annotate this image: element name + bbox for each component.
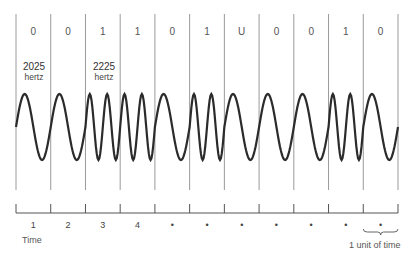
timeline-tick-label: • — [155, 220, 190, 230]
freq-unit: hertz — [14, 72, 54, 82]
cell-dividers — [16, 14, 398, 190]
bit-value: 0 — [155, 26, 190, 37]
freq-value: 2225 — [84, 62, 124, 72]
bit-value: 0 — [16, 26, 51, 37]
bit-value: 0 — [51, 26, 86, 37]
timeline-tick-label: • — [363, 220, 398, 230]
fsk-waveform — [16, 94, 398, 160]
freq-label-2025: 2025 hertz — [14, 62, 54, 82]
freq-unit: hertz — [84, 72, 124, 82]
timeline-tick-label: • — [294, 220, 329, 230]
bit-value: 1 — [85, 26, 120, 37]
timeline-tick-label: • — [259, 220, 294, 230]
time-axis-label: Time — [22, 235, 42, 245]
freq-label-2225: 2225 hertz — [84, 62, 124, 82]
bit-value: 1 — [190, 26, 225, 37]
bit-value: 1 — [329, 26, 364, 37]
timeline-tick-label: • — [190, 220, 225, 230]
bit-value: 0 — [363, 26, 398, 37]
bit-value: U — [224, 26, 259, 37]
unit-of-time-label: 1 unit of time — [349, 240, 401, 250]
timeline-tick-label: • — [224, 220, 259, 230]
timeline-axis — [16, 204, 398, 213]
timeline-tick-label: • — [329, 220, 364, 230]
bit-value: 1 — [120, 26, 155, 37]
timeline-tick-label: 3 — [85, 220, 120, 230]
timeline-tick-label: 1 — [16, 220, 51, 230]
timeline-tick-label: 4 — [120, 220, 155, 230]
freq-value: 2025 — [14, 62, 54, 72]
bit-value: 0 — [294, 26, 329, 37]
bit-value: 0 — [259, 26, 294, 37]
timeline-tick-label: 2 — [51, 220, 86, 230]
